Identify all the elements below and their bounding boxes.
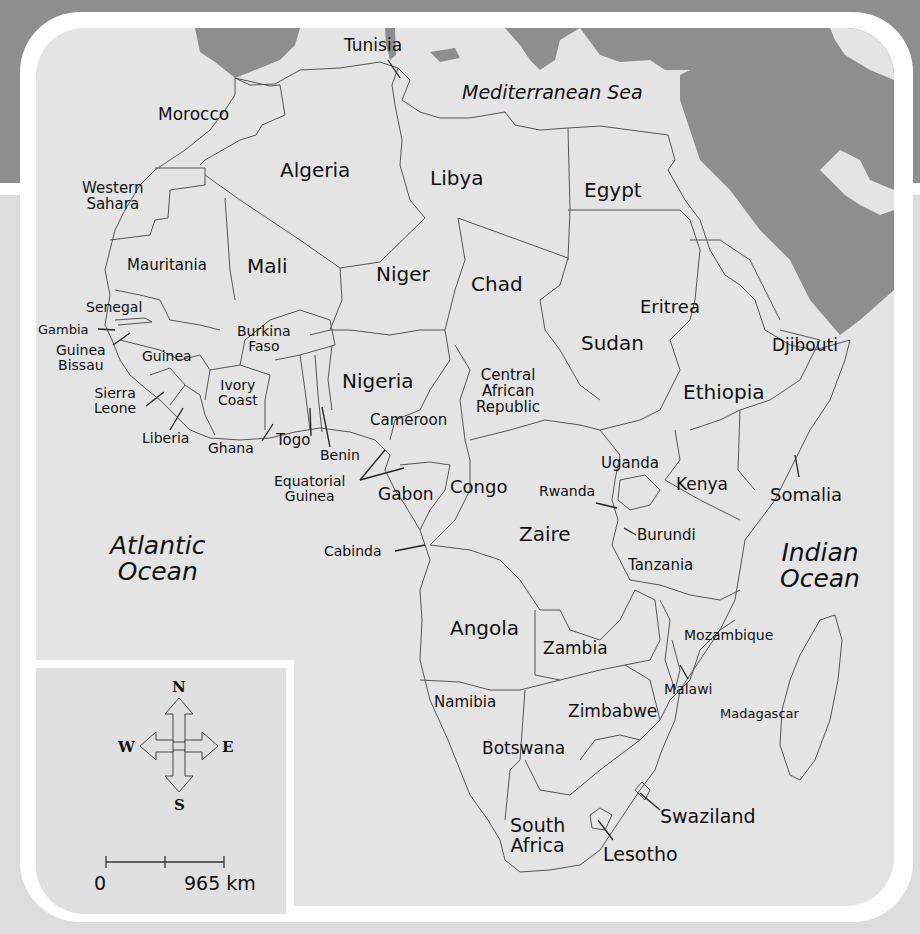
compass-west: W bbox=[118, 738, 135, 756]
scale-bar-icon bbox=[106, 856, 224, 868]
label-mozambique: Mozambique bbox=[684, 628, 773, 643]
label-liberia: Liberia bbox=[142, 431, 189, 446]
label-mediterranean-sea: Mediterranean Sea bbox=[462, 83, 643, 103]
label-sierra-leone: Sierra Leone bbox=[94, 386, 136, 415]
label-cameroon: Cameroon bbox=[370, 413, 447, 429]
label-namibia: Namibia bbox=[434, 695, 496, 711]
label-zimbabwe: Zimbabwe bbox=[568, 703, 657, 721]
label-madagascar: Madagascar bbox=[720, 707, 799, 721]
label-angola: Angola bbox=[450, 618, 519, 639]
madagascar bbox=[780, 615, 842, 780]
niger-chad bbox=[445, 218, 465, 330]
label-burkina-line1: Burkina bbox=[237, 324, 291, 339]
label-gabon: Gabon bbox=[378, 486, 434, 504]
label-burkina-faso: Burkina Faso bbox=[237, 324, 291, 353]
label-guinea-bissau-line2: Bissau bbox=[56, 358, 106, 373]
label-libya: Libya bbox=[430, 168, 484, 189]
label-gambia: Gambia bbox=[38, 323, 89, 337]
label-equatorial-guinea: Equatorial Guinea bbox=[274, 474, 345, 503]
label-burkina-line2: Faso bbox=[237, 339, 291, 354]
label-malawi: Malawi bbox=[664, 682, 712, 697]
label-tunisia: Tunisia bbox=[344, 37, 402, 55]
spain-landmass bbox=[195, 28, 300, 78]
label-guinea-bissau-line1: Guinea bbox=[56, 343, 106, 358]
label-atlantic-ocean: Atlantic Ocean bbox=[110, 533, 206, 586]
label-atlantic-line2: Ocean bbox=[110, 559, 206, 585]
label-cabinda: Cabinda bbox=[324, 544, 381, 559]
label-zaire: Zaire bbox=[519, 524, 571, 545]
label-nigeria: Nigeria bbox=[342, 371, 414, 392]
label-atlantic-line1: Atlantic bbox=[110, 533, 206, 559]
label-uganda: Uganda bbox=[601, 456, 659, 472]
compass-south: S bbox=[174, 796, 185, 814]
niger-mali bbox=[310, 268, 342, 335]
label-indian-line2: Ocean bbox=[780, 566, 860, 592]
label-chad: Chad bbox=[471, 274, 523, 295]
map-legend-inset: N S W E 0 965 km bbox=[36, 660, 294, 914]
egypt-sudan bbox=[568, 210, 690, 220]
mali-mauritania bbox=[225, 198, 235, 300]
label-algeria: Algeria bbox=[280, 160, 350, 181]
label-eritrea: Eritrea bbox=[640, 298, 700, 317]
ghana-togo bbox=[300, 355, 310, 430]
label-indian-ocean: Indian Ocean bbox=[780, 540, 860, 593]
label-guinea: Guinea bbox=[142, 349, 192, 364]
label-western-sahara-line2: Sahara bbox=[82, 197, 144, 213]
label-niger: Niger bbox=[376, 264, 430, 285]
greece-balkans bbox=[505, 28, 580, 70]
label-ivory-coast-line1: Ivory bbox=[218, 378, 258, 393]
kenya-somalia bbox=[738, 410, 755, 490]
libya-egypt bbox=[568, 128, 570, 260]
car-south bbox=[470, 420, 600, 440]
label-egypt: Egypt bbox=[584, 180, 642, 201]
label-ghana: Ghana bbox=[208, 441, 254, 456]
eritrea-border bbox=[690, 240, 780, 320]
swaziland bbox=[635, 782, 650, 800]
label-tanzania: Tanzania bbox=[628, 558, 693, 574]
tanzania-south bbox=[630, 580, 740, 600]
label-zambia: Zambia bbox=[543, 640, 608, 658]
scale-end-label: 965 km bbox=[184, 872, 256, 894]
label-sudan: Sudan bbox=[581, 333, 644, 354]
label-sierra-leone-line2: Leone bbox=[94, 401, 136, 416]
lesotho bbox=[590, 808, 612, 830]
label-car-line3: Republic bbox=[476, 400, 540, 416]
label-sierra-leone-line1: Sierra bbox=[94, 386, 136, 401]
label-ethiopia: Ethiopia bbox=[683, 382, 764, 403]
zambia-east bbox=[600, 590, 660, 665]
nigeria-north bbox=[330, 330, 445, 335]
label-benin: Benin bbox=[320, 448, 360, 463]
algeria-tunisia bbox=[392, 68, 425, 218]
label-djibouti: Djibouti bbox=[772, 337, 838, 355]
label-congo: Congo bbox=[450, 478, 507, 497]
sicily bbox=[430, 48, 460, 62]
label-botswana: Botswana bbox=[482, 740, 565, 758]
scale-start-label: 0 bbox=[94, 872, 106, 894]
label-burundi: Burundi bbox=[637, 528, 696, 544]
label-swaziland: Swaziland bbox=[660, 807, 756, 827]
compass-north: N bbox=[172, 678, 186, 696]
label-somalia: Somalia bbox=[770, 486, 842, 505]
label-kenya: Kenya bbox=[676, 476, 728, 494]
libya-chad bbox=[458, 218, 568, 258]
label-rwanda: Rwanda bbox=[539, 484, 595, 499]
label-togo: Togo bbox=[276, 433, 311, 449]
chad-sudan bbox=[540, 258, 600, 400]
label-eq-guinea-line2: Guinea bbox=[274, 489, 345, 504]
label-guinea-bissau: Guinea Bissau bbox=[56, 343, 106, 372]
label-indian-line1: Indian bbox=[780, 540, 860, 566]
label-south-africa: South Africa bbox=[510, 816, 565, 856]
label-senegal: Senegal bbox=[86, 300, 142, 315]
label-central-african-republic: Central African Republic bbox=[476, 368, 540, 415]
label-morocco: Morocco bbox=[158, 106, 229, 124]
togo-benin bbox=[315, 355, 322, 432]
algeria-south bbox=[205, 175, 425, 268]
label-ivory-coast-line2: Coast bbox=[218, 393, 258, 408]
benin-nigeria bbox=[328, 345, 332, 410]
liberia bbox=[185, 385, 215, 435]
label-western-sahara: Western Sahara bbox=[82, 181, 144, 213]
label-eq-guinea-line1: Equatorial bbox=[274, 474, 345, 489]
malawi bbox=[660, 600, 680, 690]
cameroon-car bbox=[455, 345, 470, 460]
label-lesotho: Lesotho bbox=[603, 845, 678, 865]
